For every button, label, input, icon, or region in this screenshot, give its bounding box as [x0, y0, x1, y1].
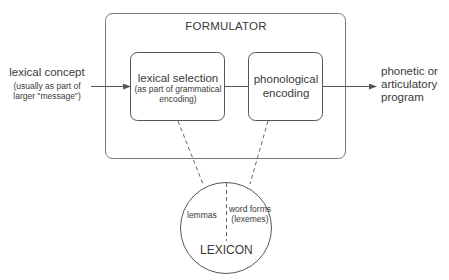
output-line-2: articulatory — [381, 78, 438, 91]
lexical-concept-subtitle-2: larger "message") — [6, 92, 88, 102]
word-forms-label: word forms (lexemes) — [228, 205, 272, 225]
lexical-selection-label: lexical selection (as part of grammatica… — [131, 72, 225, 105]
word-forms-line-2: (lexemes) — [228, 215, 272, 225]
output-line-3: program — [381, 91, 438, 104]
output-label: phonetic or articulatory program — [381, 65, 438, 105]
output-line-1: phonetic or — [381, 65, 438, 78]
phonological-encoding-line-1: phonological — [249, 73, 323, 87]
lemmas-label: lemmas — [187, 211, 217, 221]
phonological-encoding-line-2: encoding — [249, 87, 323, 101]
lexicon-title: LEXICON — [200, 244, 252, 258]
lexical-selection-subtitle-2: encoding) — [131, 95, 225, 105]
diagram-canvas — [0, 0, 449, 280]
phonological-encoding-label: phonological encoding — [249, 73, 323, 101]
input-label: lexical concept (usually as part of larg… — [6, 66, 88, 102]
word-form-access-dashed-line — [250, 121, 268, 184]
lemma-access-dashed-line — [178, 121, 203, 184]
formulator-title: FORMULATOR — [185, 20, 266, 33]
lexical-concept-title: lexical concept — [6, 66, 88, 79]
